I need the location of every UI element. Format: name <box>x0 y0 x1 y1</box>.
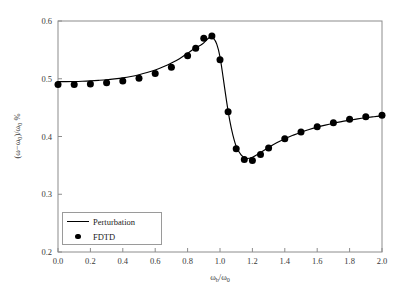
x-tick-label: 0.2 <box>85 256 96 266</box>
fdtd-data-point <box>208 33 215 40</box>
chart-figure <box>0 0 408 295</box>
chart-page: 0.00.20.40.60.81.01.21.41.61.82.0 0.20.3… <box>0 0 408 295</box>
x-tick-label: 0.0 <box>53 256 64 266</box>
fdtd-data-point <box>281 135 288 142</box>
fdtd-data-point <box>55 81 62 88</box>
fdtd-data-point <box>314 123 321 130</box>
fdtd-data-point <box>136 75 143 82</box>
fdtd-data-point <box>217 56 224 63</box>
x-axis-title: ωb/ω0 <box>210 272 230 283</box>
y-axis-title: (ω−ω0)/ω0 % <box>12 114 23 159</box>
fdtd-data-point <box>71 81 78 88</box>
fdtd-data-point <box>379 112 386 119</box>
fdtd-data-point <box>362 113 369 120</box>
legend-entry-fdtd: FDTD <box>63 229 161 244</box>
fdtd-data-point <box>200 35 207 42</box>
fdtd-data-point <box>298 128 305 135</box>
y-axis-title-text: (ω−ω0)/ω0 % <box>12 114 22 159</box>
fdtd-data-point <box>103 79 110 86</box>
y-tick-label: 0.5 <box>24 74 52 84</box>
fdtd-data-point <box>192 45 199 52</box>
y-tick-label: 0.2 <box>24 247 52 257</box>
y-tick-label: 0.4 <box>24 132 52 142</box>
x-tick-label: 1.8 <box>344 256 355 266</box>
x-tick-label: 1.0 <box>215 256 226 266</box>
fdtd-data-point <box>225 108 232 115</box>
x-tick-label: 1.4 <box>279 256 290 266</box>
fdtd-data-point <box>119 78 126 85</box>
fdtd-data-point <box>330 119 337 126</box>
legend-entry-perturbation: Perturbation <box>63 214 161 229</box>
x-tick-label: 1.6 <box>312 256 323 266</box>
fdtd-data-point <box>265 145 272 152</box>
x-tick-label: 1.2 <box>247 256 258 266</box>
fdtd-data-point <box>168 64 175 71</box>
x-axis-title-text: ωb/ω0 <box>210 272 230 282</box>
figure-background <box>0 0 408 295</box>
y-tick-label: 0.6 <box>24 16 52 26</box>
fdtd-data-point <box>346 116 353 123</box>
legend-label-fdtd: FDTD <box>93 232 115 242</box>
chart-legend: Perturbation FDTD <box>62 212 162 245</box>
fdtd-data-point <box>257 151 264 158</box>
fdtd-data-point <box>233 145 240 152</box>
legend-label-perturbation: Perturbation <box>93 217 135 227</box>
legend-dot-icon <box>63 234 93 240</box>
fdtd-data-point <box>241 156 248 163</box>
x-tick-label: 0.4 <box>117 256 128 266</box>
x-tick-label: 0.8 <box>182 256 193 266</box>
legend-line-icon <box>63 221 93 222</box>
fdtd-data-point <box>152 70 159 77</box>
fdtd-data-point <box>87 80 94 87</box>
fdtd-data-point <box>184 52 191 59</box>
x-tick-label: 2.0 <box>377 256 388 266</box>
y-tick-label: 0.3 <box>24 189 52 199</box>
x-tick-label: 0.6 <box>150 256 161 266</box>
fdtd-data-point <box>249 157 256 164</box>
